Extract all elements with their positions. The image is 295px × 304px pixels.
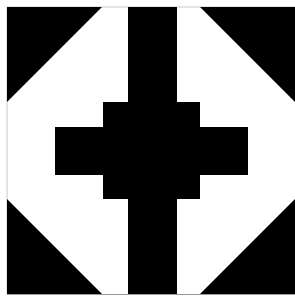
quilt-block-svg [0, 0, 295, 304]
quilt-block-graphic [0, 0, 295, 304]
